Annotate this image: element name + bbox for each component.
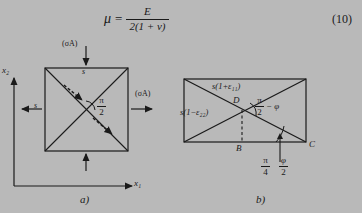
equation-row: μ = E 2(1 + ν) (10) [0,4,362,38]
angle-label-d: π 2 − φ [255,96,279,117]
angle-d-denominator: 2 [257,108,262,117]
angle-c-left-numerator: π [263,156,268,165]
equation-numerator: E [141,6,154,18]
angle-numerator: π [99,96,104,105]
point-label-d: D [233,96,240,105]
point-label-b: B [236,144,242,153]
figure-a: (σA) (σA) s s π 2 x₂ x₁ a) [0,38,180,213]
caption-b: b) [256,193,265,205]
angle-d-remainder: − φ [266,102,279,111]
equation-denominator: 2(1 + ν) [126,21,168,33]
angle-c-left-denominator: 4 [263,168,268,177]
figure-b-drawing [180,38,362,213]
equation-equals: = [115,11,122,27]
axis-label-x2: x₂ [2,66,9,75]
angle-c-right-numerator: φ [281,156,286,165]
side-label-left-b: s(1−ε₂₂) [180,108,208,117]
equation-lhs: μ [104,11,111,27]
side-label-left: s [34,102,37,110]
figure-b: s(1+ε₁₁) s(1−ε₂₂) D B C π 2 − φ π 4 φ 2 [180,38,362,213]
figure-page: μ = E 2(1 + ν) (10) [0,0,362,213]
point-label-c: C [309,140,315,149]
angle-c-right-denominator: 2 [281,168,286,177]
equation-mu: μ = E 2(1 + ν) [104,6,169,32]
angle-label-pi-over-2: π 2 [97,96,106,117]
load-label-top: (σA) [62,40,77,48]
angle-denominator: 2 [99,108,104,117]
shear-arrow-upper [64,85,82,100]
shear-arrow-lower [93,118,112,134]
axis-label-x1: x₁ [134,179,141,188]
angle-d-numerator: π [257,96,262,105]
figure-a-drawing [0,38,180,213]
side-label-top: s [82,68,85,76]
side-label-top-b: s(1+ε₁₁) [212,82,240,91]
equation-number: (10) [332,12,352,27]
angle-label-c: π 4 φ 2 [261,156,288,177]
caption-a: a) [80,193,89,205]
equation-fraction: E 2(1 + ν) [126,6,168,32]
load-label-right: (σA) [135,90,150,98]
